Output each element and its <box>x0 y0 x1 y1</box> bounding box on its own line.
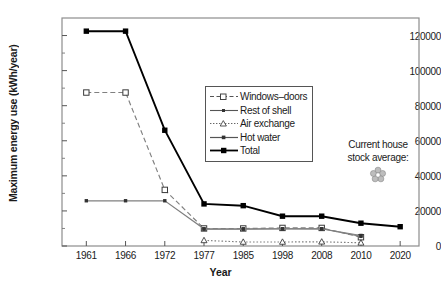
current-stock-annotation: Current house stock average: <box>326 139 430 184</box>
legend-item: Windows–doors <box>209 90 307 104</box>
legend-item: Rest of shell <box>209 104 307 118</box>
energy-use-line-chart: Maximum energy use (kWh/year) Year 02000… <box>0 0 441 285</box>
legend-label: Air exchange <box>239 118 295 129</box>
legend-label: Windows–doors <box>239 91 307 102</box>
legend-label: Rest of shell <box>239 105 291 116</box>
legend-item: Total <box>209 144 307 158</box>
legend-swatch-air-exchange <box>209 117 239 130</box>
annotation-line-1: Current house <box>348 139 407 150</box>
legend-swatch-windows-doors <box>209 90 239 103</box>
legend-label: Total <box>239 145 260 156</box>
flower-icon <box>369 166 387 184</box>
annotation-line-2: stock average: <box>348 152 409 163</box>
legend-swatch-hot-water <box>209 131 239 144</box>
legend-swatch-total <box>209 144 239 157</box>
legend-swatch-rest-of-shell <box>209 104 239 117</box>
legend-label: Hot water <box>239 132 280 143</box>
legend-item: Air exchange <box>209 117 307 131</box>
chart-legend: Windows–doors Rest of shell Air exchange… <box>205 86 313 162</box>
legend-item: Hot water <box>209 131 307 145</box>
